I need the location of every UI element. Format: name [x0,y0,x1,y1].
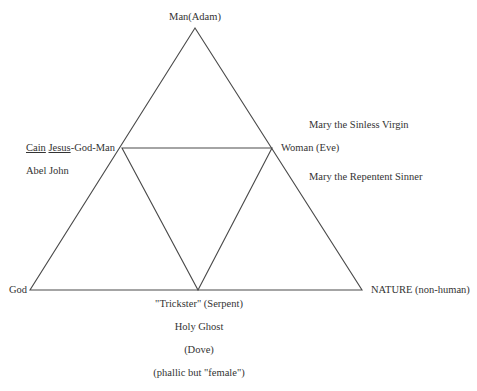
label-mary-sinless-virgin: Mary the Sinless Virgin [309,119,409,131]
label-man-adam: Man(Adam) [169,11,221,23]
label-god: God [9,284,27,296]
label-mary-repentent-sinner: Mary the Repentent Sinner [309,171,422,183]
label-abel-john: Abel John [26,165,69,177]
label-phallic-female: (phallic but "female") [153,367,244,379]
label-nature: NATURE (non-human) [371,284,470,296]
triangle-diagram [0,0,477,391]
inner-triangle [122,148,272,290]
label-cain-jesus-god-man: Cain Jesus-God-Man [26,142,115,154]
label-god-man: -God-Man [71,142,115,153]
label-trickster-serpent: "Trickster" (Serpent) [155,298,243,310]
outer-triangle [30,28,362,290]
label-jesus: Jesus [48,142,70,153]
label-holy-ghost: Holy Ghost [175,321,224,333]
label-woman-eve: Woman (Eve) [281,142,339,154]
label-cain: Cain [26,142,46,153]
label-dove: (Dove) [184,344,214,356]
